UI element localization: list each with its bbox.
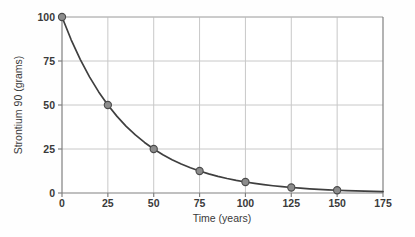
x-tick-label: 0 [59,197,65,209]
x-tick-label: 125 [283,197,301,209]
data-point-marker [150,145,157,152]
data-point-marker [288,184,295,191]
y-tick-label: 0 [49,187,55,199]
data-point-marker [334,187,341,194]
x-tick-label: 75 [194,197,206,209]
x-tick-label: 50 [148,197,160,209]
chart-figure: 0255075100125150175 0255075100 Time (yea… [0,0,415,237]
x-tick-label: 25 [102,197,114,209]
x-axis-title: Time (years) [193,212,252,224]
data-point-marker [242,178,249,185]
y-tick-label: 50 [43,99,55,111]
y-tick-label: 75 [43,55,55,67]
y-tick-label: 25 [43,143,55,155]
strontium-decay-chart: 0255075100125150175 0255075100 Time (yea… [0,0,415,237]
x-tick-label: 175 [374,197,392,209]
data-point-marker [58,13,65,20]
x-tick-label: 150 [328,197,346,209]
data-point-marker [104,101,111,108]
y-axis-title: Strontium 90 (grams) [12,56,24,155]
data-point-marker [196,167,203,174]
y-tick-label: 100 [37,11,55,23]
x-tick-label: 100 [237,197,255,209]
